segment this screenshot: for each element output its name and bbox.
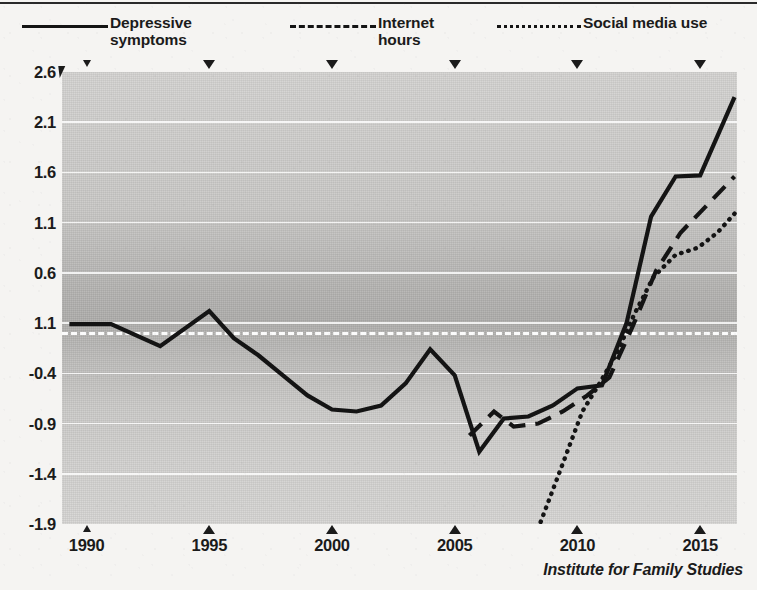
- legend-label-internet-hours: Internet hours: [378, 14, 434, 48]
- x-tick-marker-top: [83, 60, 91, 67]
- line-internet-hours: [469, 176, 734, 435]
- x-axis-tick-label: 1990: [69, 536, 105, 555]
- line-social-media-use: [541, 214, 735, 522]
- y-axis-tick-label: -1.4: [4, 464, 56, 483]
- x-axis-tick-label: 2000: [314, 536, 350, 555]
- chart-credit: Institute for Family Studies: [543, 561, 743, 579]
- x-tick-marker-bottom: [449, 525, 461, 534]
- x-tick-marker-bottom: [326, 525, 338, 534]
- x-axis-tick-label: 2005: [437, 536, 473, 555]
- chart-figure: Depressive symptoms Internet hours Socia…: [0, 0, 757, 590]
- x-tick-marker-top: [203, 60, 215, 69]
- x-tick-marker-bottom: [694, 525, 706, 534]
- x-tick-marker-top: [694, 60, 706, 69]
- series-lines: [62, 72, 737, 524]
- y-axis-tick-label: 1.1: [4, 213, 56, 232]
- y-axis-tick-label: 0.6: [4, 263, 56, 282]
- x-tick-marker-top: [571, 60, 583, 69]
- plot-area: [62, 72, 737, 524]
- dashed-line-icon: [290, 25, 376, 28]
- y-axis-tick-label: 1.6: [4, 163, 56, 182]
- y-axis-tick-label: -1.9: [4, 515, 56, 534]
- chart-legend: Depressive symptoms Internet hours Socia…: [0, 14, 757, 60]
- y-axis-tick-label: -0.4: [4, 364, 56, 383]
- x-tick-marker-bottom: [83, 525, 91, 532]
- x-axis-tick-label: 1995: [192, 536, 228, 555]
- x-axis: 199019952000200520102015: [0, 536, 757, 562]
- dotted-line-icon: [497, 25, 581, 28]
- x-tick-marker-bottom: [571, 525, 583, 534]
- y-axis-tick-label: 2.1: [4, 113, 56, 132]
- legend-item-internet-hours: Internet hours: [290, 14, 434, 48]
- y-axis-tick-label: -0.9: [4, 414, 56, 433]
- y-axis-tick-label: 1.1: [4, 314, 56, 333]
- legend-item-social-media-use: Social media use: [497, 14, 707, 31]
- x-tick-marker-top: [449, 60, 461, 69]
- x-axis-tick-label: 2010: [560, 536, 596, 555]
- legend-label-depressive-symptoms: Depressive symptoms: [110, 14, 192, 48]
- page-top-rule: [0, 2, 757, 4]
- legend-label-social-media-use: Social media use: [583, 14, 707, 31]
- y-axis: 2.62.11.61.10.61.1-0.4-0.9-1.4-1.9: [0, 0, 56, 590]
- x-axis-tick-label: 2015: [682, 536, 718, 555]
- y-axis-tick-label: 2.6: [4, 63, 56, 82]
- x-tick-marker-bottom: [203, 525, 215, 534]
- line-depressive-symptoms: [69, 97, 734, 452]
- x-tick-marker-top: [326, 60, 338, 69]
